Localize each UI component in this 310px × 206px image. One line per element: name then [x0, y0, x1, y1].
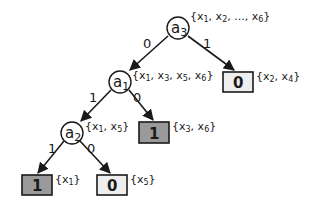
leaf-a2-1: 1 [22, 175, 52, 195]
svg-text:1: 1 [149, 125, 159, 143]
node-a2: a2 [61, 122, 83, 144]
edge-label-a2-leaf0: 0 [87, 141, 95, 156]
edge-label-a1-a2: 1 [89, 90, 97, 105]
svg-text:0: 0 [107, 177, 117, 195]
leaf-a1-0: 1 [139, 122, 169, 143]
svg-text:1: 1 [32, 177, 42, 195]
edge-label-a1-leaf: 0 [133, 90, 141, 105]
decision-tree-diagram: 0 1 1 0 1 0 a3 {x1, x2, ..., x6} a1 {x1,… [0, 0, 310, 206]
leaf-a2-0-set: {x5} [130, 173, 156, 187]
edge-label-a3-a1: 0 [143, 36, 151, 51]
node-a1: a1 [109, 71, 131, 93]
leaf-a3-1: 0 [223, 72, 253, 92]
leaf-a1-0-set: {x3, x6} [172, 120, 216, 134]
node-a3: a3 [167, 17, 189, 39]
node-a3-set: {x1, x2, ..., x6} [190, 10, 270, 24]
edge-label-a3-leaf: 1 [203, 36, 211, 51]
node-a1-set: {x1, x3, x5, x6} [132, 69, 213, 83]
leaf-a2-0: 0 [97, 175, 127, 195]
leaf-a2-1-set: {x1} [55, 173, 81, 187]
svg-text:0: 0 [233, 74, 243, 92]
leaf-a3-1-set: {x2, x4} [256, 70, 300, 84]
node-a2-set: {x1, x5} [85, 120, 129, 134]
edge-label-a2-leaf1: 1 [48, 141, 56, 156]
